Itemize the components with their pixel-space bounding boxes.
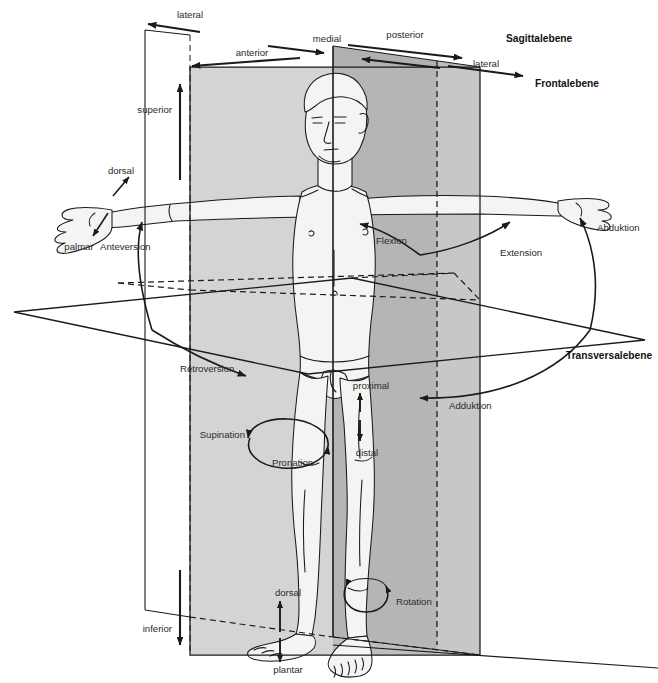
- label-superior: superior: [137, 104, 172, 115]
- label-flexion: Flexion: [376, 235, 407, 246]
- label-pronation: Pronation: [272, 457, 313, 468]
- label-proximal: proximal: [353, 380, 389, 391]
- anatomical-planes-figure: Sagittalebene Frontalebene Transversaleb…: [0, 0, 658, 683]
- label-retroversion: Retroversion: [180, 363, 234, 374]
- label-posterior: posterior: [386, 29, 424, 40]
- label-dorsal-foot: dorsal: [275, 587, 301, 598]
- label-lateral-right: lateral: [473, 58, 499, 69]
- label-extension: Extension: [500, 247, 542, 258]
- label-abduktion: Abduktion: [597, 222, 640, 233]
- diagram-canvas: Sagittalebene Frontalebene Transversaleb…: [0, 0, 658, 683]
- label-sagittalebene: Sagittalebene: [506, 33, 573, 44]
- label-supination: Supination: [200, 429, 245, 440]
- label-frontalebene: Frontalebene: [535, 78, 599, 89]
- label-distal: distal: [356, 447, 378, 458]
- label-anterior: anterior: [236, 47, 269, 58]
- label-medial: medial: [313, 33, 341, 44]
- label-anteversion: Anteversion: [100, 241, 151, 252]
- label-plantar: plantar: [273, 664, 303, 675]
- label-transversalebene: Transversalebene: [566, 350, 652, 361]
- label-dorsal-hand: dorsal: [108, 165, 134, 176]
- label-rotation: Rotation: [396, 596, 432, 607]
- label-inferior: inferior: [143, 623, 173, 634]
- label-lateral-top-left: lateral: [177, 9, 203, 20]
- label-adduktion: Adduktion: [449, 400, 492, 411]
- label-palmar: palmar: [64, 241, 94, 252]
